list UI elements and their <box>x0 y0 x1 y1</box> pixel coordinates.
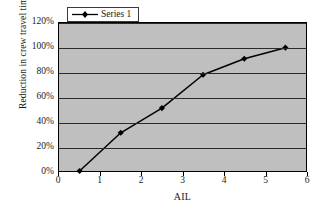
y-axis-tick-label: 120% <box>20 17 54 27</box>
y-axis-tick-label: 60% <box>20 92 54 102</box>
x-axis-tick-label: 1 <box>90 176 110 186</box>
y-axis-tick-label: 40% <box>20 117 54 127</box>
x-axis-tick-label: 2 <box>131 176 151 186</box>
x-axis-tick-label: 3 <box>173 176 193 186</box>
x-axis-title: AIL <box>58 191 307 202</box>
gridline <box>59 48 306 49</box>
line-chart: Reduction in crew travel time 0%20%40%60… <box>0 0 328 213</box>
x-axis-tick-label: 0 <box>48 176 68 186</box>
y-axis-tick-label: 100% <box>20 42 54 52</box>
gridline <box>59 123 306 124</box>
gridline <box>59 148 306 149</box>
x-axis-tick-label: 4 <box>214 176 234 186</box>
x-axis-tick-labels: 0123456 <box>58 176 307 190</box>
diamond-line-marker-icon <box>72 10 98 19</box>
x-axis-tick-label: 6 <box>297 176 317 186</box>
gridline <box>59 98 306 99</box>
data-point-marker <box>241 56 247 62</box>
series-line <box>80 48 286 171</box>
y-axis-tick-label: 80% <box>20 67 54 77</box>
plot-area: Series 1 <box>58 22 307 172</box>
legend[interactable]: Series 1 <box>67 7 139 22</box>
legend-label-series-1: Series 1 <box>101 10 131 20</box>
y-axis-tick-label: 20% <box>20 142 54 152</box>
x-axis-tick-label: 5 <box>256 176 276 186</box>
gridline <box>59 73 306 74</box>
gridline <box>59 23 306 24</box>
